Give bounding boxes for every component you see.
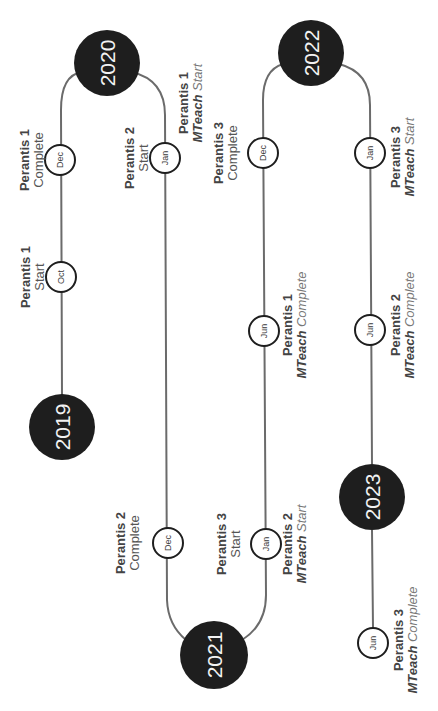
svg-text:Perantis 1: Perantis 1 <box>280 294 295 356</box>
month-label: Dec <box>163 535 173 552</box>
year-label: 2023 <box>361 474 384 521</box>
milestone-label: Perantis 3 Start <box>214 513 243 575</box>
timeline-diagram: 2019 2020 2021 2022 2023 Oct Dec Jan Dec… <box>0 0 438 711</box>
svg-text:Start: Start <box>32 263 47 291</box>
milestone-label: Perantis 2 MTeach Complete <box>388 271 417 378</box>
month-label: Jan <box>365 146 375 161</box>
svg-text:Perantis 2: Perantis 2 <box>388 294 403 356</box>
month-label: Jun <box>259 324 269 339</box>
svg-text:Complete: Complete <box>31 132 46 188</box>
year-label: 2019 <box>51 404 74 451</box>
month-label: Oct <box>56 270 66 285</box>
milestone-label: Perantis 2 Start <box>122 127 151 189</box>
svg-text:MTeach Complete: MTeach Complete <box>294 271 309 378</box>
svg-text:Perantis 1: Perantis 1 <box>176 72 191 134</box>
month-node: Dec <box>45 145 75 175</box>
milestone-label: Perantis 2 MTeach Start <box>280 503 309 583</box>
month-node: Jun <box>355 315 385 345</box>
milestone-label: Perantis 1 Complete <box>17 129 46 191</box>
svg-text:Complete: Complete <box>127 515 142 571</box>
svg-text:MTeach Complete: MTeach Complete <box>405 586 420 693</box>
milestone-label: Perantis 1 MTeach Complete <box>280 271 309 378</box>
milestone-label: Perantis 2 Complete <box>113 512 142 574</box>
svg-text:MTeach Complete: MTeach Complete <box>402 271 417 378</box>
milestone-label: Perantis 1 Start <box>18 246 47 308</box>
month-node: Dec <box>248 138 278 168</box>
year-node-2022: 2022 <box>278 20 344 86</box>
svg-text:Perantis 3: Perantis 3 <box>211 122 226 184</box>
month-label: Jan <box>261 537 271 552</box>
year-label: 2022 <box>300 30 323 77</box>
svg-text:Start: Start <box>228 530 243 558</box>
milestone-label: Perantis 3 MTeach Complete <box>391 586 420 693</box>
month-node: Jun <box>249 316 279 346</box>
svg-text:Perantis 3: Perantis 3 <box>391 609 406 671</box>
svg-text:Start: Start <box>136 144 151 172</box>
month-label: Jun <box>365 323 375 338</box>
month-label: Dec <box>55 152 65 169</box>
month-label: Dec <box>258 145 268 162</box>
svg-text:Perantis 2: Perantis 2 <box>280 513 295 575</box>
svg-text:MTeach Start: MTeach Start <box>294 503 309 583</box>
milestone-label: Perantis 3 Complete <box>211 122 240 184</box>
month-label: Jan <box>160 151 170 166</box>
svg-text:Perantis 1: Perantis 1 <box>18 246 33 308</box>
year-node-2020: 2020 <box>74 30 140 96</box>
year-node-2023: 2023 <box>339 464 405 530</box>
year-label: 2020 <box>96 40 119 87</box>
svg-text:Perantis 3: Perantis 3 <box>388 126 403 188</box>
month-label: Jun <box>368 636 378 651</box>
svg-text:Perantis 2: Perantis 2 <box>122 127 137 189</box>
month-node: Jun <box>358 628 388 658</box>
svg-text:Perantis 2: Perantis 2 <box>113 512 128 574</box>
month-node: Dec <box>153 528 183 558</box>
year-node-2019: 2019 <box>29 394 95 460</box>
milestone-label: Perantis 1 MTeach Start <box>176 62 205 142</box>
svg-text:MTeach Start: MTeach Start <box>190 62 205 142</box>
month-node: Jan <box>355 138 385 168</box>
month-node: Jan <box>251 529 281 559</box>
year-label: 2021 <box>203 632 226 679</box>
month-node: Oct <box>46 262 76 292</box>
month-node: Jan <box>150 143 180 173</box>
svg-text:Complete: Complete <box>225 125 240 181</box>
svg-text:Perantis 1: Perantis 1 <box>17 129 32 191</box>
year-node-2021: 2021 <box>180 621 248 689</box>
milestone-label: Perantis 3 MTeach Start <box>388 116 417 196</box>
svg-text:MTeach Start: MTeach Start <box>402 116 417 196</box>
svg-text:Perantis 3: Perantis 3 <box>214 513 229 575</box>
